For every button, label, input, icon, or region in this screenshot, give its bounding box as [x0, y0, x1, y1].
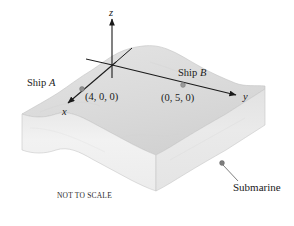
ship-b-label: Ship B	[178, 68, 206, 79]
ship-a-dot-marker[interactable]	[80, 87, 85, 92]
ship-b-label-text: Ship	[178, 67, 197, 78]
ship-b-dot-marker[interactable]	[181, 83, 186, 88]
ship-a-label-text: Ship	[27, 77, 46, 88]
z-axis-label: z	[109, 8, 113, 19]
submarine-leader-line	[223, 165, 238, 181]
ship-a-label-letter: A	[49, 77, 55, 88]
x-axis-label: x	[62, 107, 67, 118]
not-to-scale-note: NOT TO SCALE	[57, 192, 112, 200]
y-axis-label: y	[243, 92, 248, 103]
figure-container: Ship A Ship B (4, 0, 0) (0, 5, 0) x y z …	[0, 0, 294, 226]
ship-a-label: Ship A	[27, 78, 55, 89]
submarine-label: Submarine	[233, 182, 281, 193]
ship-a-coordinates: (4, 0, 0)	[85, 92, 118, 103]
ship-b-label-letter: B	[200, 67, 206, 78]
ship-b-coordinates: (0, 5, 0)	[161, 93, 194, 104]
submarine-dot-marker[interactable]	[220, 161, 225, 166]
